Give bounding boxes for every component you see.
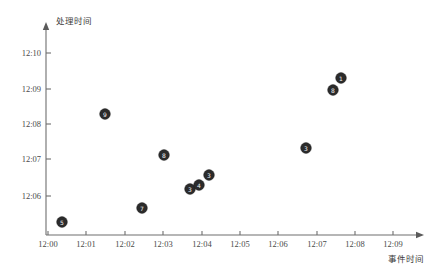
x-tick-label: 12:01 — [76, 239, 95, 249]
y-tick-label: 12:08 — [22, 119, 41, 129]
x-tick-label: 12:00 — [38, 239, 57, 249]
data-point-marker[interactable] — [137, 203, 148, 214]
x-axis-ticks: 12:0012:0112:0212:0312:0412:0512:0612:07… — [38, 231, 402, 249]
x-tick-label: 12:02 — [115, 239, 134, 249]
data-points-group: 5978343381 — [57, 73, 347, 228]
x-tick-label: 12:04 — [192, 239, 212, 249]
data-point[interactable]: 8 — [159, 150, 170, 161]
data-point-marker[interactable] — [100, 109, 111, 120]
y-tick-label: 12:06 — [22, 191, 41, 201]
data-point[interactable]: 3 — [301, 143, 312, 154]
y-tick-label: 12:10 — [22, 48, 41, 58]
x-tick-label: 12:03 — [153, 239, 172, 249]
data-point[interactable]: 1 — [336, 73, 347, 84]
x-tick-label: 12:05 — [230, 239, 249, 249]
y-tick-label: 12:07 — [22, 154, 41, 164]
data-point-marker[interactable] — [328, 85, 339, 96]
data-point-marker[interactable] — [336, 73, 347, 84]
data-point[interactable]: 4 — [194, 180, 205, 191]
y-axis-ticks: 12:0612:0712:0812:0912:10 — [22, 48, 51, 201]
x-axis-title: 事件时间 — [388, 254, 424, 264]
x-tick-label: 12:07 — [307, 239, 326, 249]
data-point-marker[interactable] — [159, 150, 170, 161]
scatter-chart-container: 12:0012:0112:0212:0312:0412:0512:0612:07… — [0, 0, 431, 277]
data-point-marker[interactable] — [57, 217, 68, 228]
y-axis-title: 处理时间 — [56, 16, 92, 26]
data-point[interactable]: 8 — [328, 85, 339, 96]
axes-group — [43, 22, 424, 238]
data-point[interactable]: 5 — [57, 217, 68, 228]
data-point-marker[interactable] — [194, 180, 205, 191]
y-axis-arrow-icon — [43, 22, 49, 30]
x-tick-label: 12:08 — [345, 239, 364, 249]
data-point[interactable]: 7 — [137, 203, 148, 214]
data-point[interactable]: 9 — [100, 109, 111, 120]
y-tick-label: 12:09 — [22, 84, 41, 94]
x-axis-arrow-icon — [416, 232, 424, 238]
x-tick-label: 12:09 — [383, 239, 402, 249]
data-point[interactable]: 3 — [204, 170, 215, 181]
x-tick-label: 12:06 — [268, 239, 287, 249]
data-point-marker[interactable] — [301, 143, 312, 154]
data-point-marker[interactable] — [204, 170, 215, 181]
scatter-plot-svg: 12:0012:0112:0212:0312:0412:0512:0612:07… — [0, 0, 431, 277]
